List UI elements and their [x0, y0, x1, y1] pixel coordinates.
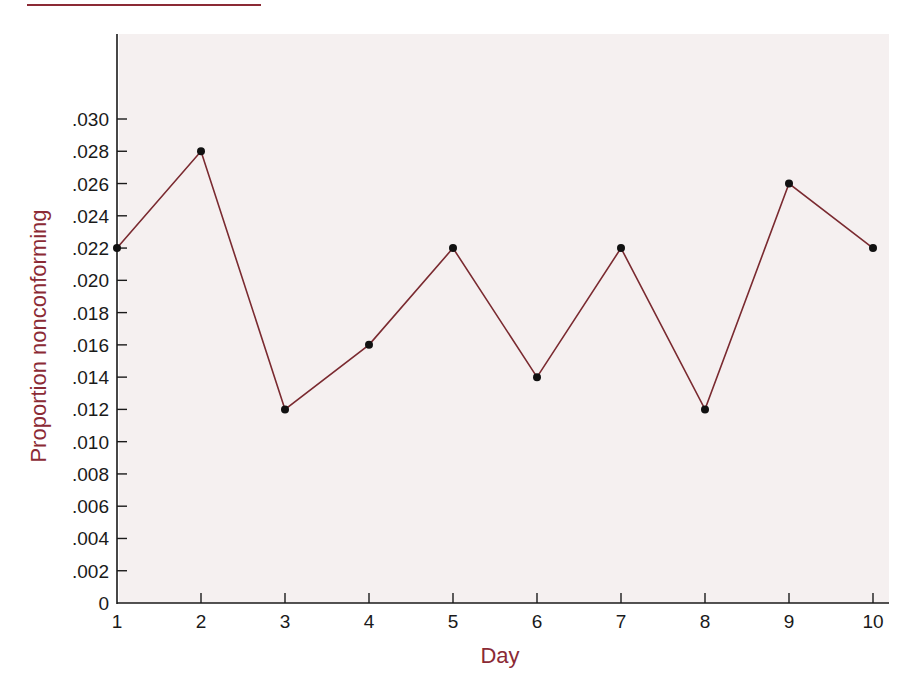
x-tick-label: 9	[784, 611, 795, 632]
plot-background	[119, 34, 889, 603]
data-point	[281, 405, 289, 413]
y-tick-label: .012	[72, 399, 109, 420]
y-tick-label: 0	[98, 593, 109, 614]
x-tick-label: 4	[364, 611, 375, 632]
x-tick-label: 5	[448, 611, 459, 632]
x-tick-label: 2	[196, 611, 207, 632]
y-tick-label: .006	[72, 496, 109, 517]
x-tick-label: 3	[280, 611, 291, 632]
y-tick-label: .004	[72, 528, 109, 549]
y-tick-label: .010	[72, 432, 109, 453]
y-tick-label: .016	[72, 335, 109, 356]
data-point	[197, 147, 205, 155]
data-point	[449, 244, 457, 252]
y-tick-label: .008	[72, 464, 109, 485]
data-point	[365, 341, 373, 349]
y-tick-label: .030	[72, 109, 109, 130]
y-tick-label: .028	[72, 141, 109, 162]
x-tick-label: 6	[532, 611, 543, 632]
data-point	[869, 244, 877, 252]
data-point	[533, 373, 541, 381]
y-tick-label: .014	[72, 367, 109, 388]
data-point	[785, 180, 793, 188]
y-axis-title: Proportion nonconforming	[26, 209, 51, 462]
x-axis-title: Day	[480, 643, 519, 668]
x-tick-label: 1	[112, 611, 123, 632]
y-tick-label: .026	[72, 174, 109, 195]
data-point	[617, 244, 625, 252]
y-tick-label: .024	[72, 206, 109, 227]
x-tick-label: 8	[700, 611, 711, 632]
y-axis-ticks: 0.002.004.006.008.010.012.014.016.018.02…	[72, 109, 127, 614]
x-tick-label: 7	[616, 611, 627, 632]
data-point	[701, 405, 709, 413]
y-tick-label: .022	[72, 238, 109, 259]
y-tick-label: .020	[72, 270, 109, 291]
x-tick-label: 10	[862, 611, 883, 632]
data-point	[113, 244, 121, 252]
line-chart: 0.002.004.006.008.010.012.014.016.018.02…	[0, 0, 917, 700]
y-tick-label: .002	[72, 561, 109, 582]
y-tick-label: .018	[72, 303, 109, 324]
